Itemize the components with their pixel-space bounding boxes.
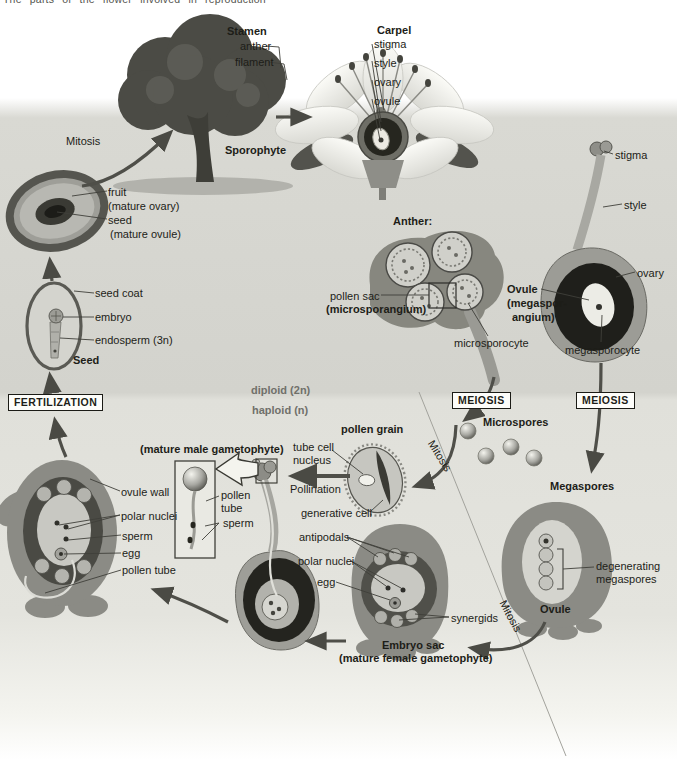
label-style-flower: style xyxy=(374,57,397,70)
label-anther-cap: Anther: xyxy=(393,215,432,228)
label-fruit: fruit xyxy=(108,186,126,199)
label-fertilization: FERTILIZATION xyxy=(8,394,103,411)
label-egg-left: egg xyxy=(122,547,140,560)
label-degenerating-2: megaspores xyxy=(596,573,657,586)
label-meiosis-left: MEIOSIS xyxy=(452,392,511,409)
label-anther-flower: anther xyxy=(240,40,271,53)
label-ovule-bottom: Ovule xyxy=(540,603,571,616)
life-cycle-diagram: The parts of the flower involved in repr… xyxy=(0,0,677,771)
label-generative-cell: generative cell xyxy=(301,507,372,520)
label-ovule-flower: ovule xyxy=(374,95,400,108)
caption-text: The parts of the flower involved in repr… xyxy=(0,0,677,5)
label-microspores: Microspores xyxy=(483,416,548,429)
label-endosperm: endosperm (3n) xyxy=(95,334,173,347)
label-nucleus: nucleus xyxy=(293,454,331,467)
label-pollen-tube-left: pollen tube xyxy=(122,564,176,577)
label-style-carpel: style xyxy=(624,199,647,212)
label-stigma-flower: stigma xyxy=(374,38,406,51)
label-ovary-flower: ovary xyxy=(374,76,401,89)
label-embryo-sac: Embryo sac xyxy=(382,639,444,652)
labels-layer: MitosisSporophyteStamenantherfilamentCar… xyxy=(0,0,677,771)
label-megasporocyte: megasporocyte xyxy=(565,344,640,357)
label-ovule-meg-2: (megaspor- xyxy=(507,297,567,310)
label-polar-nuclei-center: polar nuclei xyxy=(298,555,354,568)
label-sperm-inset: sperm xyxy=(223,517,254,530)
label-megaspores: Megaspores xyxy=(550,480,614,493)
label-sporophyte: Sporophyte xyxy=(225,144,286,157)
label-polar-nuclei-left: polar nuclei xyxy=(121,510,177,523)
label-antipodals: antipodals xyxy=(299,531,349,544)
label-pollen-tube-inset-2: tube xyxy=(221,502,242,515)
label-pollen-sac: pollen sac xyxy=(330,290,380,303)
label-diploid: diploid (2n) xyxy=(251,384,310,397)
label-microsporocyte: microsporocyte xyxy=(454,337,529,350)
label-pollination: Pollination xyxy=(290,483,341,496)
label-degenerating-1: degenerating xyxy=(596,560,660,573)
label-ovule-meg-1: Ovule xyxy=(507,283,538,296)
label-seed-cap: Seed xyxy=(73,354,99,367)
label-seed-line: seed xyxy=(108,214,132,227)
label-seed-coat: seed coat xyxy=(95,287,143,300)
label-synergids: synergids xyxy=(451,612,498,625)
label-carpel: Carpel xyxy=(377,24,411,37)
label-stamen: Stamen xyxy=(227,25,267,38)
label-seed-sub: (mature ovule) xyxy=(110,228,181,241)
label-mitosis-mid: Mitosis xyxy=(425,438,454,474)
label-ovule-meg-3: angium) xyxy=(512,311,555,324)
label-microsporangium: (microsporangium) xyxy=(326,303,426,316)
label-fruit-sub: (mature ovary) xyxy=(108,200,180,213)
clipped-caption: The parts of the flower involved in repr… xyxy=(0,0,677,6)
label-pollen-tube-inset-1: pollen xyxy=(221,489,250,502)
label-ovary-carpel: ovary xyxy=(637,267,664,280)
label-meiosis-right: MEIOSIS xyxy=(576,392,635,409)
label-mitosis-tree: Mitosis xyxy=(66,135,100,148)
label-mature-female: (mature female gametophyte) xyxy=(339,652,492,665)
label-tube-cell: tube cell xyxy=(293,441,334,454)
label-mitosis-bottom: Mitosis xyxy=(497,598,525,634)
label-mature-male: (mature male gametophyte) xyxy=(140,443,284,456)
label-pollen-grain: pollen grain xyxy=(341,423,403,436)
label-egg-center: egg xyxy=(317,576,335,589)
label-haploid: haploid (n) xyxy=(252,404,308,417)
label-embryo: embryo xyxy=(95,311,132,324)
label-ovule-wall: ovule wall xyxy=(121,486,169,499)
label-stigma-carpel: stigma xyxy=(615,149,647,162)
label-filament: filament xyxy=(235,56,274,69)
label-sperm-left: sperm xyxy=(122,530,153,543)
